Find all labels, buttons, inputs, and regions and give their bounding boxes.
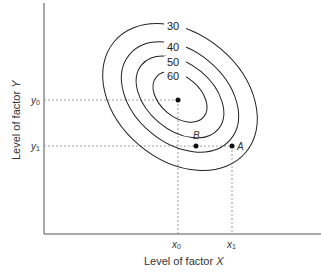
y1-tick: y1 (30, 141, 40, 152)
x1-tick: x1 (226, 239, 236, 250)
contour-label-50: 50 (167, 56, 179, 68)
y-axis-label: Level of factor Y (10, 80, 22, 160)
contour-label-40: 40 (167, 41, 179, 53)
point-a (230, 144, 235, 149)
optimum-point (176, 98, 181, 103)
y0-tick: y0 (30, 95, 40, 106)
x-axis-label: Level of factor X (144, 255, 224, 267)
point-a-label: A (236, 141, 244, 152)
contour-label-60: 60 (167, 70, 179, 82)
contour-chart: 30 40 50 60 B A y0 y1 x0 x1 Level of fac… (0, 0, 321, 274)
point-b (194, 144, 199, 149)
x0-tick: x0 (171, 239, 181, 250)
point-b-label: B (193, 130, 200, 141)
contour-label-30: 30 (167, 20, 179, 32)
